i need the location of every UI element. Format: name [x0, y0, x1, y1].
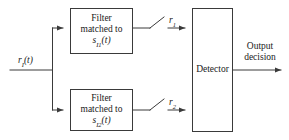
output-decision-line2: decision: [233, 52, 287, 63]
diagram-canvas: [0, 0, 289, 140]
filter-bottom-signal-subscript: I2: [96, 121, 101, 128]
input-signal-arg: (t): [24, 55, 33, 65]
input-signal-label: rI(t): [18, 55, 33, 67]
output-decision-line1: Output: [233, 41, 287, 52]
output-decision-label: Output decision: [233, 41, 287, 64]
sampler-bottom-output-label: r2: [169, 97, 176, 109]
filter-top-label: Filter matched to sI1(t): [70, 13, 133, 47]
filter-top-signal-arg: (t): [102, 35, 111, 45]
sampler-bottom-output-subscript: 2: [173, 103, 176, 110]
filter-top-signal-subscript: I1: [96, 41, 101, 48]
sampler-top-output-subscript: 1: [173, 21, 176, 28]
filter-bottom-signal-arg: (t): [102, 115, 111, 125]
input-signal-subscript: I: [22, 61, 24, 68]
sampler-top-output-label: r1: [169, 15, 176, 27]
sampler-top-blade: [150, 17, 164, 28]
filter-bottom-line1: Filter: [70, 93, 133, 104]
filter-top-line1: Filter: [70, 13, 133, 24]
filter-bottom-signal: sI2(t): [70, 115, 133, 127]
block-diagram-figure: rI(t) Filter matched to sI1(t) Filter ma…: [0, 0, 289, 140]
detector-label: Detector: [192, 64, 233, 75]
filter-bottom-label: Filter matched to sI2(t): [70, 93, 133, 127]
sampler-bottom-blade: [150, 99, 164, 110]
filter-bottom-line2: matched to: [70, 104, 133, 115]
filter-top-line2: matched to: [70, 24, 133, 35]
filter-top-signal: sI1(t): [70, 35, 133, 47]
